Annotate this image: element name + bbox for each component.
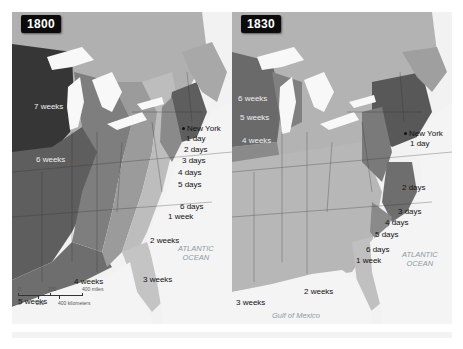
time-label: 3 weeks	[236, 298, 265, 307]
time-label: 1 day	[186, 134, 206, 143]
time-label: 2 days	[184, 145, 208, 154]
time-label: 6 weeks	[238, 94, 267, 103]
time-label: 4 days	[178, 168, 202, 177]
time-label: 4 weeks	[242, 136, 271, 145]
time-label: 6 days	[180, 202, 204, 211]
city-marker-new-york: New York	[404, 129, 443, 138]
map-panel-1830: 1830 New York 6 weeks 5 weeks 4 weeks 1 …	[232, 12, 452, 324]
time-label: 3 days	[182, 156, 206, 165]
time-label: 3 weeks	[143, 275, 172, 284]
time-label: 6 weeks	[36, 155, 65, 164]
time-label: 7 weeks	[34, 102, 63, 111]
city-dot-icon	[404, 132, 407, 135]
caption-strip	[12, 332, 452, 338]
time-label: 2 days	[402, 183, 426, 192]
time-label: 5 days	[375, 230, 399, 239]
time-label: 6 days	[366, 245, 390, 254]
map-1830-graphic	[232, 12, 452, 324]
time-label: 5 days	[178, 180, 202, 189]
year-badge: 1800	[21, 15, 61, 33]
time-label: 3 days	[398, 207, 422, 216]
ocean-label: ATLANTIC OCEAN	[402, 250, 438, 268]
time-label: 1 week	[168, 212, 193, 221]
city-marker-new-york: New York	[182, 124, 221, 133]
time-label: 1 week	[356, 256, 381, 265]
scale-bar: 0 200 400 miles 0 200 400 kilometers	[18, 284, 98, 310]
city-dot-icon	[182, 127, 185, 130]
ocean-label: ATLANTIC OCEAN	[178, 244, 214, 262]
time-label: 2 weeks	[150, 236, 179, 245]
time-label: 5 weeks	[240, 113, 269, 122]
time-label: 1 day	[410, 139, 430, 148]
time-label: 2 weeks	[304, 287, 333, 296]
gulf-label: Gulf of Mexico	[272, 311, 320, 320]
time-label: 4 days	[385, 218, 409, 227]
map-panel-1800: 1800 New York 7 weeks 6 weeks 1 day 2 da…	[12, 12, 232, 324]
year-badge: 1830	[241, 15, 281, 33]
